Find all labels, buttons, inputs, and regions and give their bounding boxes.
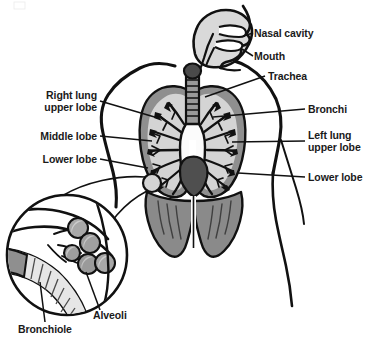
leader-left-lung-upper bbox=[232, 141, 305, 142]
trachea bbox=[184, 64, 201, 126]
diaphragm bbox=[146, 192, 243, 257]
label-middle-lobe: Middle lobe bbox=[0, 130, 97, 143]
label-left-lung-upper-lobe-line1: Left lung bbox=[308, 129, 351, 142]
label-left-lung-upper-lobe-line2: upper lobe bbox=[308, 141, 361, 154]
label-alveoli: Alveoli bbox=[93, 309, 127, 322]
label-bronchi: Bronchi bbox=[308, 103, 347, 116]
magnify-marker-circle bbox=[143, 174, 161, 192]
leader-lower-lobe-left bbox=[100, 159, 148, 168]
trachea-cartilage-rings bbox=[187, 80, 199, 116]
label-lower-lobe-right-lung: Lower lobe bbox=[0, 153, 97, 166]
head-profile bbox=[194, 6, 252, 70]
scan-artifact bbox=[14, 2, 25, 9]
label-right-lung-upper-lobe-line1: Right lung bbox=[0, 89, 97, 102]
label-bronchiole: Bronchiole bbox=[18, 323, 72, 336]
label-mouth: Mouth bbox=[254, 50, 285, 63]
label-trachea: Trachea bbox=[268, 70, 307, 83]
label-lower-lobe-left-lung: Lower lobe bbox=[308, 171, 362, 184]
label-nasal-cavity: Nasal cavity bbox=[254, 27, 314, 40]
label-right-lung-upper-lobe-line2: upper lobe bbox=[0, 101, 97, 114]
respiratory-system-diagram: Nasal cavity Mouth Trachea Bronchi Left … bbox=[0, 0, 373, 345]
larynx bbox=[184, 64, 201, 79]
